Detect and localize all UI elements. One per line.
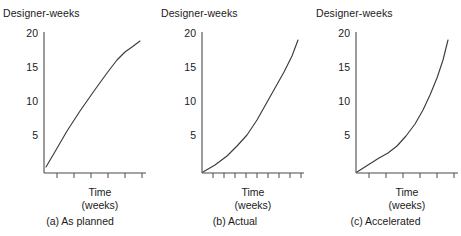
data-curve-b — [203, 40, 298, 172]
chart-panel-b: Designer-weeks 20 15 10 5 — [160, 0, 310, 236]
y-tick-label-b-5: 5 — [190, 129, 196, 141]
y-tick-label-a-5: 5 — [32, 129, 38, 141]
x-axis-unit-a: (weeks) — [20, 199, 180, 212]
y-tick-label-c-10: 10 — [338, 95, 350, 107]
y-tick-label-c-15: 15 — [338, 61, 350, 73]
plot-area-a: 20 15 10 5 — [0, 26, 160, 184]
data-curve-c — [357, 40, 448, 172]
x-axis-label-c: Time — [332, 186, 461, 199]
y-axis-title-b: Designer-weeks — [161, 7, 238, 19]
y-tick-label-b-10: 10 — [184, 95, 196, 107]
x-axis-label-b: Time — [178, 186, 328, 199]
x-axis-unit-b: (weeks) — [178, 199, 328, 212]
panel-caption-b: (b) Actual — [160, 215, 310, 228]
y-tick-label-b-20: 20 — [184, 27, 196, 39]
y-tick-label-b-15: 15 — [184, 61, 196, 73]
chart-panel-c: Designer-weeks 20 15 10 5 — [310, 0, 461, 236]
data-curve-a — [46, 41, 140, 167]
y-tick-label-a-15: 15 — [26, 61, 38, 73]
x-tick-marks-a — [57, 173, 142, 178]
y-tick-label-a-20: 20 — [26, 27, 38, 39]
y-tick-label-c-20: 20 — [338, 27, 350, 39]
x-axis-label-a: Time — [20, 186, 180, 199]
y-tick-label-c-5: 5 — [344, 129, 350, 141]
x-tick-marks-c — [369, 173, 454, 178]
plot-area-c: 20 15 10 5 — [310, 26, 461, 184]
plot-area-b: 20 15 10 5 — [160, 26, 310, 184]
panel-caption-c: (c) Accelerated — [310, 215, 461, 228]
panel-caption-a: (a) As planned — [0, 215, 160, 228]
y-axis-title-a: Designer-weeks — [3, 7, 80, 19]
y-axis-title-c: Designer-weeks — [316, 7, 393, 19]
figure-three-progress-charts: Designer-weeks 20 15 10 5 — [0, 0, 461, 236]
x-tick-marks-b — [213, 173, 301, 178]
x-axis-unit-c: (weeks) — [332, 199, 461, 212]
chart-panel-a: Designer-weeks 20 15 10 5 — [0, 0, 160, 236]
y-tick-label-a-10: 10 — [26, 95, 38, 107]
